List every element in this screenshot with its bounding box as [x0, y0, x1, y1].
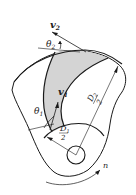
rotation-arrowhead: [95, 170, 100, 175]
arrowhead-d2: [114, 66, 118, 73]
label-v2: v2: [50, 19, 60, 31]
impeller-passage-diagram: v2 θ2 v1 θ1 D1 2 D2 2 n: [0, 0, 136, 195]
v2-vector: [52, 32, 86, 52]
svg-text:2: 2: [95, 98, 105, 107]
svg-text:D1: D1: [59, 124, 70, 134]
theta2-arrowhead: [58, 41, 62, 44]
svg-text:2: 2: [60, 134, 66, 142]
label-rotation-n: n: [103, 161, 108, 170]
radius-line-d2: [76, 66, 118, 155]
label-d2-half: D2 2: [85, 90, 106, 107]
label-d1-half: D1 2: [59, 124, 70, 142]
label-theta1: θ1: [34, 106, 43, 117]
label-theta2: θ2: [46, 39, 55, 50]
